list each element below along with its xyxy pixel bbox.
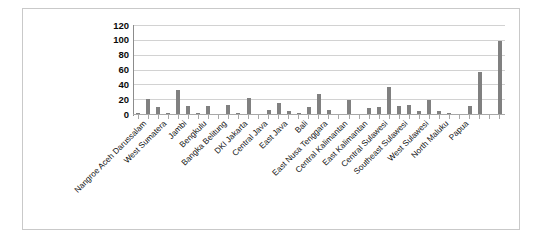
y-tick-60: 60 (87, 65, 129, 74)
bar[interactable] (387, 87, 391, 114)
bar-slot (193, 25, 203, 114)
bar-slot (264, 25, 274, 114)
bar[interactable] (206, 106, 210, 114)
bar[interactable] (146, 99, 150, 114)
bar[interactable] (317, 94, 321, 114)
bar-slot (354, 25, 364, 114)
y-axis-line (133, 25, 134, 116)
bar-slot (485, 25, 495, 114)
bar-slot (244, 25, 254, 114)
bar[interactable] (226, 105, 230, 114)
bar[interactable] (176, 90, 180, 114)
bar[interactable] (478, 72, 482, 114)
bar-slot (233, 25, 243, 114)
bar-slot (294, 25, 304, 114)
bar[interactable] (186, 106, 190, 114)
bar-slot (314, 25, 324, 114)
bar-slot (475, 25, 485, 114)
bar[interactable] (407, 105, 411, 114)
bar-slot (465, 25, 475, 114)
y-axis-tick-labels: 120 100 80 60 40 20 0 (83, 25, 129, 114)
bar[interactable] (307, 107, 311, 114)
bar-slot (183, 25, 193, 114)
y-tick-80: 80 (87, 50, 129, 59)
bar[interactable] (156, 107, 160, 114)
plot-area (133, 25, 505, 114)
y-tick-120: 120 (87, 21, 129, 30)
y-tick-40: 40 (87, 80, 129, 89)
x-axis-label: Nangroe Aceh Darussalam (73, 119, 149, 195)
bar-slot (284, 25, 294, 114)
bar[interactable] (277, 103, 281, 114)
bar[interactable] (247, 98, 251, 114)
bar-slot (404, 25, 414, 114)
x-axis-label: Bali (293, 119, 309, 135)
bar[interactable] (347, 100, 351, 114)
bar-slot (163, 25, 173, 114)
bar-slot (374, 25, 384, 114)
y-tick-0: 0 (87, 110, 129, 119)
bar-slot (455, 25, 465, 114)
x-axis-tick-labels: Nangroe Aceh DarussalamWest SumateraJamb… (133, 119, 505, 214)
y-tick-100: 100 (87, 35, 129, 44)
bar-slot (153, 25, 163, 114)
bar[interactable] (397, 106, 401, 114)
bar-slot (173, 25, 183, 114)
bar[interactable] (377, 107, 381, 114)
bar[interactable] (498, 41, 502, 114)
bar[interactable] (427, 100, 431, 114)
bar-slot (223, 25, 233, 114)
bar-slot (424, 25, 434, 114)
chart-figure: 120 100 80 60 40 20 0 Nangroe Aceh Darus… (22, 8, 520, 230)
bar-slot (344, 25, 354, 114)
bar[interactable] (468, 106, 472, 114)
bar-slot (304, 25, 314, 114)
bar-slot (434, 25, 444, 114)
bar-slot (495, 25, 505, 114)
bar-slot (334, 25, 344, 114)
bar-slot (143, 25, 153, 114)
y-tick-20: 20 (87, 95, 129, 104)
bar-slot (203, 25, 213, 114)
bar-slot (324, 25, 334, 114)
bar-slot (384, 25, 394, 114)
bar-slot (133, 25, 143, 114)
bar-slot (444, 25, 454, 114)
bar-slot (254, 25, 264, 114)
bar-slot (364, 25, 374, 114)
bar-slot (394, 25, 404, 114)
bar-slot (274, 25, 284, 114)
bar-slot (414, 25, 424, 114)
x-axis-label: Papua (447, 119, 470, 142)
bar-series (133, 25, 505, 114)
bar-slot (213, 25, 223, 114)
